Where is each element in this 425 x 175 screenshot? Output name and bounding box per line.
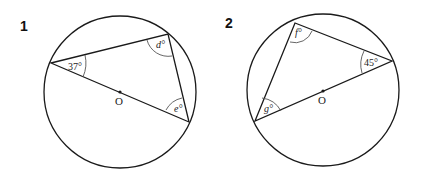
angle-label-g: g°: [264, 103, 273, 114]
inscribed-triangle-2: [255, 23, 392, 121]
diagram-number-2: 2: [225, 15, 233, 31]
diagram-2: 2 O f° 45° g°: [225, 14, 399, 166]
center-point-2: [321, 89, 324, 92]
angle-label-e: e°: [174, 103, 182, 114]
center-point-1: [118, 90, 121, 93]
angle-label-37: 37°: [68, 61, 82, 72]
center-label-2: O: [318, 94, 326, 106]
angle-label-d: d°: [156, 39, 165, 50]
circle-theorem-figures: 1 O 37° d° e° 2 O f° 45° g°: [0, 0, 425, 175]
diagram-number-1: 1: [20, 18, 28, 34]
angle-label-45: 45°: [364, 57, 378, 68]
diagram-1: 1 O 37° d° e°: [20, 16, 196, 168]
angle-label-f: f°: [295, 27, 302, 38]
inscribed-triangle-1: [51, 34, 189, 122]
angle-arc-37: [83, 55, 86, 77]
center-label-1: O: [115, 95, 123, 107]
